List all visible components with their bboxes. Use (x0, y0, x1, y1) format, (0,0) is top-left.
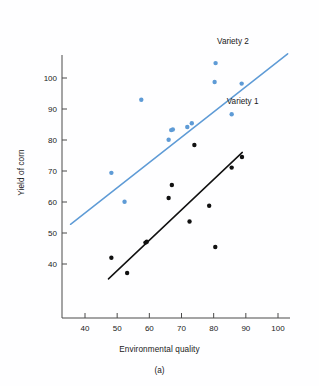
x-tick-label-90: 90 (241, 324, 250, 333)
x-tick-label-100: 100 (271, 324, 285, 333)
x-axis-ticks: 405060708090100 (81, 313, 286, 333)
data-point-series-2 (170, 183, 174, 187)
y-tick-label-100: 100 (44, 74, 58, 83)
data-point-series-2 (109, 256, 113, 260)
data-point-series-2 (240, 155, 244, 159)
y-tick-label-60: 60 (48, 198, 57, 207)
data-point-series-1 (239, 81, 243, 85)
panel-label: (a) (0, 366, 319, 375)
data-point-series-2 (207, 204, 211, 208)
data-point-series-1 (185, 125, 189, 129)
x-axis-label: Environmental quality (0, 345, 319, 354)
scatter-plot: 405060708090100 405060708090100 Variety … (0, 0, 319, 386)
y-tick-label-90: 90 (48, 105, 57, 114)
data-point-series-1 (190, 121, 194, 125)
y-tick-label-40: 40 (48, 260, 57, 269)
y-tick-label-50: 50 (48, 229, 57, 238)
fit-line-series-1 (71, 54, 288, 225)
data-point-series-2 (213, 245, 217, 249)
data-point-series-2 (192, 143, 196, 147)
data-point-series-2 (187, 219, 191, 223)
data-point-series-1 (171, 127, 175, 131)
data-point-series-1 (122, 199, 126, 203)
data-point-series-1 (139, 98, 143, 102)
data-point-series-2 (229, 165, 233, 169)
data-point-series-2 (166, 196, 170, 200)
data-points-layer (109, 61, 244, 275)
x-tick-label-60: 60 (145, 324, 154, 333)
figure-panel: 405060708090100 405060708090100 Variety … (0, 0, 319, 386)
y-tick-label-70: 70 (48, 167, 57, 176)
series-labels: Variety 2Variety 1 (217, 37, 259, 106)
data-point-series-1 (166, 137, 170, 141)
data-point-series-1 (213, 61, 217, 65)
x-tick-label-80: 80 (209, 324, 218, 333)
data-point-series-2 (145, 239, 149, 243)
y-axis-ticks: 405060708090100 (44, 74, 67, 269)
series-label-2: Variety 1 (227, 97, 259, 106)
y-axis-label: Yield of corn (17, 130, 26, 216)
data-point-series-1 (229, 112, 233, 116)
data-point-series-1 (212, 80, 216, 84)
series-label-1: Variety 2 (217, 37, 249, 46)
y-tick-label-80: 80 (48, 136, 57, 145)
regression-lines (71, 54, 288, 279)
x-tick-label-50: 50 (113, 324, 122, 333)
x-tick-label-70: 70 (177, 324, 186, 333)
data-point-series-1 (109, 171, 113, 175)
x-tick-label-40: 40 (81, 324, 90, 333)
fit-line-series-2 (108, 152, 242, 278)
data-point-series-2 (125, 271, 129, 275)
axes (62, 55, 290, 318)
